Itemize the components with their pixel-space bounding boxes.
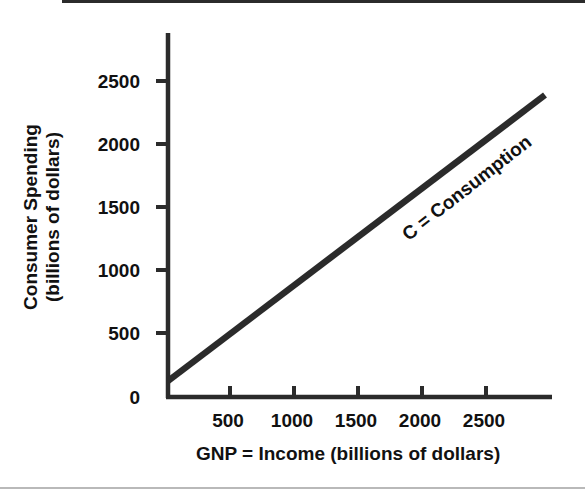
y-axis-title-line2: (billions of dollars) [42,62,64,372]
y-tick-label-1500: 1500 [92,198,140,217]
y-tick-label-1000: 1000 [92,261,140,280]
y-tick-label-500: 500 [92,324,140,343]
y-axis-title: Consumer Spending (billions of dollars) [20,62,65,372]
y-tick-label-0: 0 [92,388,140,407]
figure-canvas: 0 500 1000 1500 2000 2500 500 1000 1500 … [0,0,585,497]
x-tick-label-2000: 2000 [399,411,441,430]
x-axis-title: GNP = Income (billions of dollars) [196,443,500,465]
x-tick-label-1000: 1000 [271,411,313,430]
y-axis-title-line1: Consumer Spending [20,124,41,310]
y-tick-label-2500: 2500 [92,72,140,91]
x-tick-label-500: 500 [212,411,244,430]
x-tick-label-1500: 1500 [335,411,377,430]
y-tick-label-2000: 2000 [92,135,140,154]
consumption-line [168,95,545,381]
x-tick-label-2500: 2500 [463,411,505,430]
